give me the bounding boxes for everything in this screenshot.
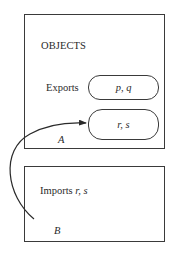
exports-label: Exports bbox=[46, 83, 79, 94]
imports-statement: Imports r, s bbox=[40, 186, 88, 197]
module-b-name: B bbox=[54, 226, 60, 237]
exported-items-text: p, q bbox=[116, 82, 132, 93]
shared-items-text: r, s bbox=[117, 119, 129, 130]
module-b-box bbox=[24, 166, 165, 242]
exported-items-pill: p, q bbox=[88, 75, 159, 100]
shared-items-pill: r, s bbox=[88, 109, 159, 140]
module-a-name: A bbox=[58, 135, 64, 146]
imports-label: Imports bbox=[40, 185, 75, 196]
module-a-title: OBJECTS bbox=[41, 41, 86, 52]
imported-items-text: r, s bbox=[75, 185, 87, 196]
module-import-diagram: OBJECTS Exports p, q r, s A Imports r, s… bbox=[0, 0, 175, 255]
